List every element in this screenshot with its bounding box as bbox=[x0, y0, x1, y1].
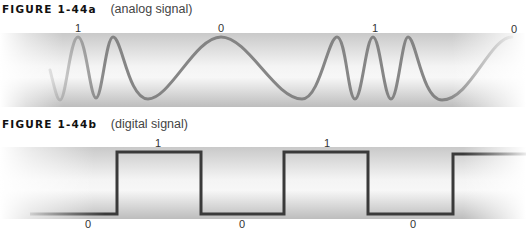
digital-label-2: 0 bbox=[85, 218, 91, 230]
analog-label-4: 0 bbox=[511, 23, 517, 35]
analog-label-2: 0 bbox=[218, 22, 224, 34]
digital-band bbox=[0, 147, 526, 219]
digital-label-5: 0 bbox=[410, 218, 416, 230]
signal-diagrams: 1 0 1 0 1 0 0 1 0 bbox=[0, 0, 526, 240]
analog-label-1: 1 bbox=[75, 22, 81, 34]
digital-label-1: 1 bbox=[155, 137, 161, 149]
analog-label-3: 1 bbox=[372, 22, 378, 34]
digital-label-3: 0 bbox=[239, 218, 245, 230]
digital-label-4: 1 bbox=[324, 137, 330, 149]
